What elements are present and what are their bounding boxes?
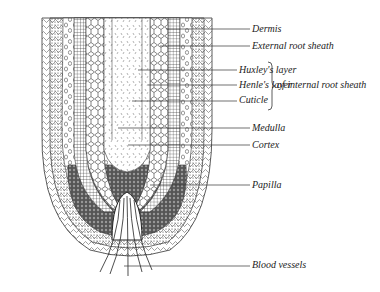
label-external-root-sheath: External root sheath [252, 41, 334, 51]
label-cortex: Cortex [252, 140, 279, 150]
label-huxleys-layer: Huxley's layer [239, 65, 296, 75]
label-cuticle: Cuticle [239, 95, 268, 105]
label-blood-vessels: Blood vessels [252, 260, 306, 270]
label-medulla: Medulla [252, 123, 285, 133]
label-dermis: Dermis [252, 24, 281, 34]
label-internal-root-sheath-group: of internal root sheath [277, 80, 366, 90]
label-papilla: Papilla [252, 180, 281, 190]
medulla [104, 18, 150, 172]
